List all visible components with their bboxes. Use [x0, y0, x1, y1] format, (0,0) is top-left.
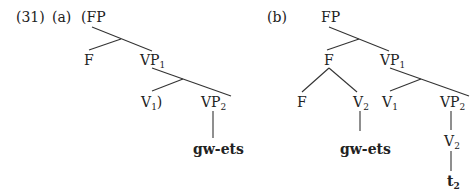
tree-a-node-fp: (FP	[81, 9, 106, 25]
tree-b-node-v1: V1	[382, 94, 398, 110]
tree-a-label: (a)	[52, 9, 71, 25]
tree-b-node-f: F	[324, 52, 334, 68]
tree-b-trace: t2	[447, 173, 460, 189]
tree-branches	[0, 0, 476, 195]
tree-b-node-vp2: VP2	[440, 94, 465, 110]
example-number: (31)	[16, 9, 45, 25]
tree-b-node-v2-under-vp2: V2	[444, 133, 460, 149]
tree-b-label: (b)	[267, 9, 287, 25]
tree-b-node-f-left: F	[297, 94, 307, 110]
tree-b-node-v2-under-f: V2	[353, 94, 369, 110]
tree-a-node-vp2: VP2	[201, 94, 226, 110]
tree-b-leaf-gw-ets: gw-ets	[340, 141, 391, 157]
tree-a-node-v1: V1)	[141, 94, 162, 110]
tree-b-node-fp: FP	[321, 9, 340, 25]
tree-b-node-vp1: VP1	[380, 52, 405, 68]
tree-a-node-vp1: VP1	[140, 52, 165, 68]
tree-a-leaf-gw-ets: gw-ets	[193, 141, 244, 157]
tree-a-node-f: F	[84, 52, 94, 68]
